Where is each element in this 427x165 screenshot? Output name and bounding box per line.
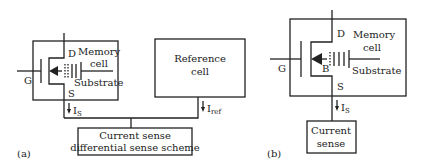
body-arrow-icon-a	[49, 66, 58, 76]
cell-current-label-b: IS	[341, 102, 350, 115]
body-label-b: B	[322, 63, 329, 74]
current-arrow-head-icon-a	[67, 109, 71, 114]
gate-label-a: G	[24, 75, 32, 86]
substrate-label-b: Substrate	[352, 65, 402, 76]
ref-current-label: Iref	[207, 103, 222, 116]
ref-current-arrow-head-icon	[201, 107, 205, 112]
body-arrow-icon-b	[311, 53, 322, 65]
drain-wire-a	[49, 33, 64, 118]
drain-label-b: D	[337, 28, 345, 39]
source-label-a: S	[68, 88, 75, 99]
reference-cell-label-1: Reference	[174, 53, 226, 64]
current-arrow-head-icon-b	[335, 106, 339, 111]
sense-block-label-2: differential sense scheme	[70, 142, 200, 153]
memory-cell-title-b2: cell	[363, 42, 381, 53]
panel-label-a: (a)	[17, 148, 31, 159]
sense-block-b-label-1: Current	[311, 125, 351, 136]
sense-block-label-1: Current sense	[99, 130, 171, 141]
memory-cell-title-b1: Memory	[353, 29, 395, 40]
gate-label-b: G	[278, 63, 286, 74]
source-label-b: S	[337, 81, 344, 92]
memory-cell-title-a2: cell	[90, 58, 108, 69]
memory-cell-title-a1: Memory	[78, 46, 120, 57]
substrate-label-a: Substrate	[74, 77, 124, 88]
panel-label-b: (b)	[267, 148, 281, 159]
diagram-canvas: D Memory cell G Substrate S IS Reference…	[0, 0, 427, 165]
sense-block-b-label-2: sense	[317, 138, 346, 149]
cell-current-label-a: IS	[73, 105, 82, 118]
drain-label-a: D	[68, 48, 76, 59]
reference-cell-label-2: cell	[191, 66, 209, 77]
